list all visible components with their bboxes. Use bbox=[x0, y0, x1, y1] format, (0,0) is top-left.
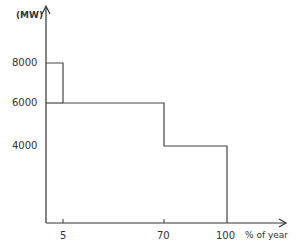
x-tick-label-5: 5 bbox=[60, 230, 66, 241]
x-tick-label-70: 70 bbox=[157, 230, 170, 241]
load-step-curve bbox=[46, 63, 227, 223]
chart-plot bbox=[0, 0, 296, 251]
y-tick-label-6000: 6000 bbox=[12, 97, 37, 108]
x-tick-label-100: 100 bbox=[216, 230, 235, 241]
x-axis-label: % of year bbox=[245, 230, 288, 240]
y-tick-label-4000: 4000 bbox=[12, 140, 37, 151]
y-axis-label: (MW) bbox=[16, 10, 43, 20]
y-tick-label-8000: 8000 bbox=[12, 57, 37, 68]
